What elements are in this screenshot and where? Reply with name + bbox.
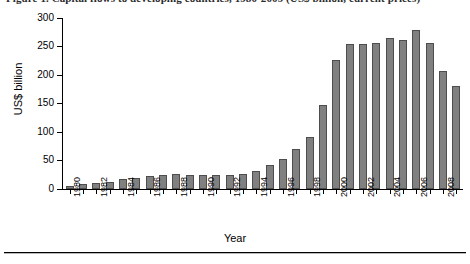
x-axis-tick	[176, 190, 177, 194]
bar-series	[63, 18, 463, 189]
x-axis-tick	[243, 190, 244, 194]
bar	[359, 44, 367, 189]
y-axis-label: 100	[20, 127, 54, 137]
x-axis-tick	[283, 190, 284, 194]
x-axis-labels: 1980198219841986198819901992199419961998…	[63, 196, 463, 230]
x-axis-tick	[336, 190, 337, 194]
x-axis-label: 1998	[313, 177, 322, 197]
x-axis-tick	[96, 190, 97, 194]
x-axis-tick	[350, 190, 351, 194]
x-axis-label: 2002	[367, 177, 376, 197]
x-axis-label: 1988	[180, 177, 189, 197]
y-axis-label: 0	[20, 184, 54, 194]
x-axis-tick	[456, 190, 457, 194]
x-axis-tick	[363, 190, 364, 194]
x-axis-tick	[216, 190, 217, 194]
x-axis-tick	[110, 190, 111, 194]
x-axis-label: 1996	[287, 177, 296, 197]
x-axis-tick	[150, 190, 151, 194]
x-axis-tick	[403, 190, 404, 194]
x-axis-tick	[416, 190, 417, 194]
x-axis-label: 1980	[73, 177, 82, 197]
x-axis-label: 2008	[447, 177, 456, 197]
x-axis-tick	[443, 190, 444, 194]
bottom-divider	[4, 252, 466, 254]
x-axis-tick	[83, 190, 84, 194]
x-axis-tick	[136, 190, 137, 194]
x-axis-tick	[323, 190, 324, 194]
x-axis-tick	[310, 190, 311, 194]
bar	[332, 60, 340, 189]
x-axis-label: 1990	[207, 177, 216, 197]
x-axis-label: 1982	[100, 177, 109, 197]
bar	[412, 30, 420, 189]
x-axis-tick	[203, 190, 204, 194]
x-axis-tick	[296, 190, 297, 194]
y-axis-labels: 300 250 200 150 100 50 0	[16, 0, 54, 232]
figure-container: Figure 1. Capital flows to developing co…	[0, 0, 470, 264]
x-axis-tick	[390, 190, 391, 194]
chart-plot-area: US$ billion 300 250 200 150 100 50 0 198…	[0, 0, 470, 232]
x-axis-label: 2006	[420, 177, 429, 197]
x-axis-label: 1986	[153, 177, 162, 197]
bar	[439, 71, 447, 189]
x-axis-label: 2000	[340, 177, 349, 197]
x-axis-tick	[230, 190, 231, 194]
x-axis-label: 1984	[127, 177, 136, 197]
x-axis-tick	[256, 190, 257, 194]
bar	[346, 44, 354, 189]
x-axis-tick	[270, 190, 271, 194]
x-axis-tick	[123, 190, 124, 194]
y-axis-label: 250	[20, 41, 54, 51]
bar	[426, 43, 434, 189]
x-axis-tick	[190, 190, 191, 194]
x-axis-label: 1994	[260, 177, 269, 197]
bar	[386, 38, 394, 189]
bar	[452, 86, 460, 189]
bar	[372, 43, 380, 189]
x-axis-label: 1992	[233, 177, 242, 197]
bar	[399, 40, 407, 189]
x-axis-label: 2004	[393, 177, 402, 197]
x-axis-tick	[376, 190, 377, 194]
y-axis-label: 300	[20, 13, 54, 23]
y-axis-label: 200	[20, 70, 54, 80]
y-axis-label: 150	[20, 98, 54, 108]
x-axis-title: Year	[0, 232, 470, 244]
x-axis-tick	[70, 190, 71, 194]
x-axis-tick	[163, 190, 164, 194]
x-axis-tick	[430, 190, 431, 194]
y-axis-label: 50	[20, 155, 54, 165]
